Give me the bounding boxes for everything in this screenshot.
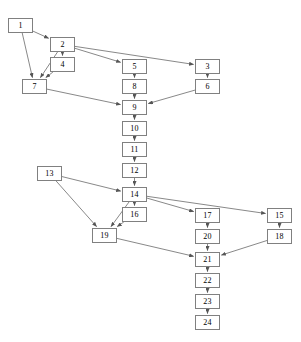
graph-node-13[interactable]: 13 <box>37 166 62 181</box>
graph-node-20[interactable]: 20 <box>195 229 220 244</box>
graph-node-12[interactable]: 12 <box>122 163 147 178</box>
graph-edge-6-to-9 <box>149 90 196 103</box>
graph-edge-14-to-17 <box>147 198 194 211</box>
graph-node-23[interactable]: 23 <box>195 294 220 309</box>
graph-node-19[interactable]: 19 <box>92 228 117 243</box>
graph-node-2[interactable]: 2 <box>50 37 75 52</box>
graph-node-24[interactable]: 24 <box>195 315 220 330</box>
graph-node-5[interactable]: 5 <box>122 59 147 74</box>
graph-node-11[interactable]: 11 <box>122 142 147 157</box>
graph-node-9[interactable]: 9 <box>122 100 147 115</box>
graph-edge-13-to-14 <box>62 177 121 191</box>
graph-edge-4-to-7 <box>46 72 53 78</box>
graph-node-16[interactable]: 16 <box>122 207 147 222</box>
graph-edge-1-to-7 <box>22 33 32 78</box>
graph-node-17[interactable]: 17 <box>195 208 220 223</box>
graph-node-1[interactable]: 1 <box>8 18 33 33</box>
graph-edge-1-to-2 <box>33 31 49 38</box>
graph-node-4[interactable]: 4 <box>50 57 75 72</box>
graph-node-6[interactable]: 6 <box>195 79 220 94</box>
graph-edge-13-to-19 <box>56 181 96 227</box>
graph-node-14[interactable]: 14 <box>122 187 147 202</box>
graph-node-8[interactable]: 8 <box>122 79 147 94</box>
graph-canvas: 123456789101112131415161718192021222324 <box>0 0 301 342</box>
graph-node-21[interactable]: 21 <box>195 252 220 267</box>
graph-node-22[interactable]: 22 <box>195 273 220 288</box>
graph-node-15[interactable]: 15 <box>267 208 292 223</box>
graph-edge-16-to-19 <box>117 222 123 227</box>
graph-node-18[interactable]: 18 <box>267 229 292 244</box>
graph-node-7[interactable]: 7 <box>22 79 47 94</box>
graph-edge-2-to-5 <box>75 48 121 62</box>
graph-edge-7-to-9 <box>47 89 121 104</box>
graph-edge-18-to-21 <box>222 240 268 255</box>
graph-node-3[interactable]: 3 <box>195 59 220 74</box>
graph-edge-19-to-21 <box>117 238 194 256</box>
graph-node-10[interactable]: 10 <box>122 121 147 136</box>
